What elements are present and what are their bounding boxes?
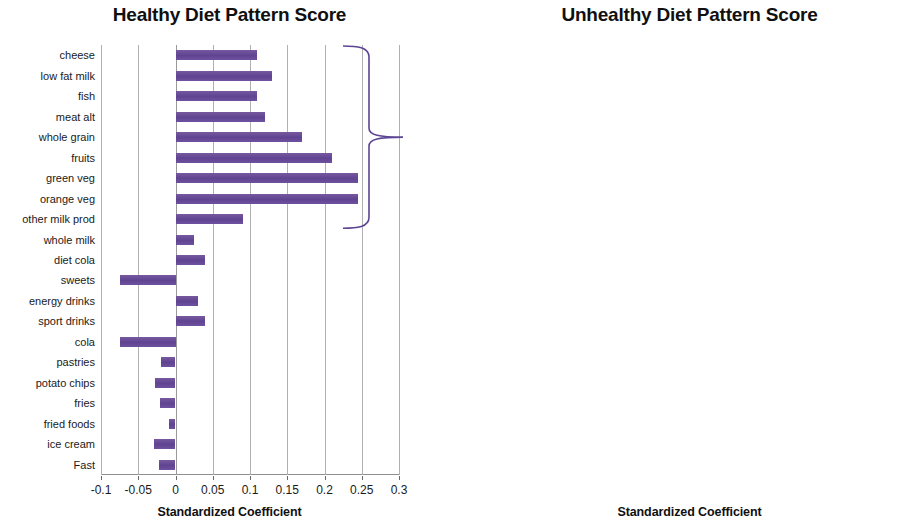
- x-axis-title-unhealthy: Standardized Coefficient: [460, 505, 919, 519]
- bar: [176, 71, 273, 81]
- bar: [161, 357, 176, 367]
- gridline: [213, 45, 214, 475]
- gridline: [287, 45, 288, 475]
- bar: [120, 337, 176, 347]
- gridline: [250, 45, 251, 475]
- category-label: cola: [1, 336, 95, 348]
- category-label: meat alt: [1, 111, 95, 123]
- bar: [176, 91, 258, 101]
- x-tick-mark: [176, 476, 177, 480]
- x-tick-mark: [250, 476, 251, 480]
- category-label: fruits: [1, 152, 95, 164]
- bar: [176, 132, 303, 142]
- category-label: other milk prod: [1, 213, 95, 225]
- bar: [176, 50, 258, 60]
- bar: [176, 214, 243, 224]
- category-label: low fat milk: [1, 70, 95, 82]
- category-label: diet cola: [1, 254, 95, 266]
- x-tick-mark: [399, 476, 400, 480]
- x-tick-mark: [101, 476, 102, 480]
- category-label: ice cream: [1, 438, 95, 450]
- panel-unhealthy-diet: Unhealthy Diet Pattern Score -0.1-0.0500…: [460, 0, 919, 529]
- gridline: [138, 45, 139, 475]
- bar: [176, 255, 206, 265]
- x-tick-label: 0.3: [369, 483, 429, 497]
- category-label: sport drinks: [1, 315, 95, 327]
- bar: [176, 173, 359, 183]
- gridline: [101, 45, 102, 475]
- x-tick-mark: [325, 476, 326, 480]
- x-tick-mark: [213, 476, 214, 480]
- bar: [176, 112, 265, 122]
- category-label: potato chips: [1, 377, 95, 389]
- category-label: energy drinks: [1, 295, 95, 307]
- category-label: sweets: [1, 274, 95, 286]
- plot-area-healthy: -0.1-0.0500.050.10.150.20.250.3: [101, 45, 399, 475]
- category-label: fried foods: [1, 418, 95, 430]
- bar: [169, 419, 176, 429]
- x-tick-mark: [138, 476, 139, 480]
- bar: [176, 316, 206, 326]
- bar: [155, 378, 176, 388]
- gridline: [325, 45, 326, 475]
- chart-title-healthy: Healthy Diet Pattern Score: [0, 4, 459, 26]
- chart-title-unhealthy: Unhealthy Diet Pattern Score: [460, 4, 919, 26]
- category-label: orange veg: [1, 193, 95, 205]
- bar: [176, 194, 359, 204]
- gridline: [399, 45, 400, 475]
- x-axis-title-healthy: Standardized Coefficient: [0, 505, 459, 519]
- category-label: cheese: [1, 49, 95, 61]
- bar: [159, 460, 175, 470]
- x-tick-mark: [362, 476, 363, 480]
- category-label: pastries: [1, 356, 95, 368]
- category-label: fish: [1, 90, 95, 102]
- panel-healthy-diet: Healthy Diet Pattern Score -0.1-0.0500.0…: [0, 0, 459, 529]
- figure-two-panel-bar-charts: Healthy Diet Pattern Score -0.1-0.0500.0…: [0, 0, 919, 529]
- bar: [120, 275, 176, 285]
- category-label: whole grain: [1, 131, 95, 143]
- bar: [176, 296, 198, 306]
- category-label: green veg: [1, 172, 95, 184]
- bar: [176, 235, 195, 245]
- gridline: [362, 45, 363, 475]
- bar: [176, 153, 332, 163]
- x-tick-mark: [287, 476, 288, 480]
- bar: [154, 439, 176, 449]
- category-label: Fast: [1, 459, 95, 471]
- category-label: fries: [1, 397, 95, 409]
- category-label: whole milk: [1, 234, 95, 246]
- bar: [160, 398, 176, 408]
